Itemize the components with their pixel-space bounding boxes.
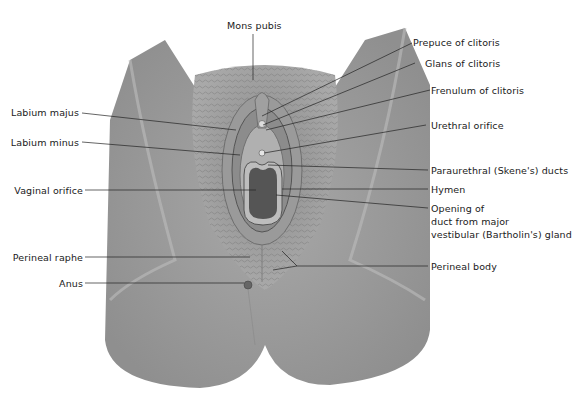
label-perineal-body: Perineal body [431, 261, 497, 272]
label-frenulum-of-clitoris: Frenulum of clitoris [431, 85, 524, 96]
label-mons-pubis: Mons pubis [227, 20, 282, 31]
label-vaginal-orifice: Vaginal orifice [14, 185, 83, 196]
label-urethral-orifice: Urethral orifice [431, 120, 504, 131]
label-glans-of-clitoris: Glans of clitoris [425, 58, 500, 69]
label-bartholin-line3: vestibular (Bartholin's) gland [431, 229, 572, 240]
label-bartholin-line1: Opening of [431, 203, 484, 214]
label-labium-minus: Labium minus [11, 137, 79, 148]
label-prepuce-of-clitoris: Prepuce of clitoris [413, 37, 500, 48]
label-bartholin-line2: duct from major [431, 216, 509, 227]
label-paraurethral-ducts: Paraurethral (Skene's) ducts [431, 165, 568, 176]
label-labium-majus: Labium majus [11, 107, 79, 118]
label-hymen: Hymen [431, 184, 465, 195]
label-anus: Anus [59, 278, 83, 289]
label-perineal-raphe: Perineal raphe [13, 252, 83, 263]
